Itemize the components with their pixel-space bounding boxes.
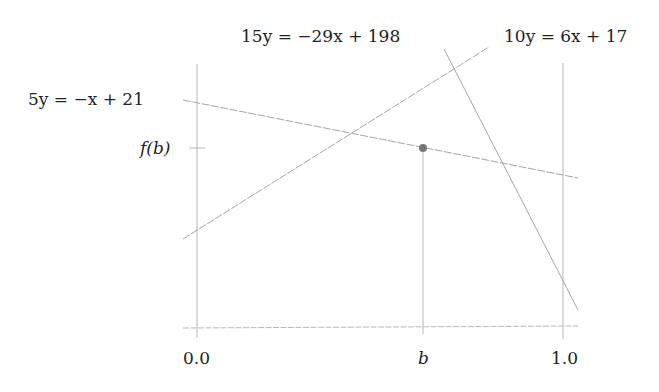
label-line-10y: 10y = 6x + 17 [504,28,627,45]
x-tick-b: b [418,350,429,367]
line-5y-eq-neg-x-plus-21 [183,100,578,178]
x-tick-0: 0.0 [183,350,210,367]
point-b-fb [419,144,427,152]
chart-canvas [0,0,659,392]
label-line-5y: 5y = −x + 21 [28,91,144,108]
x-axis [183,326,578,328]
x-tick-1: 1.0 [551,350,578,367]
line-10y-eq-6x-plus-17 [183,47,489,239]
y-tick-fb: f(b) [140,140,170,157]
line-15y-eq-neg29x-plus-198 [444,49,578,310]
label-line-15y: 15y = −29x + 198 [241,28,400,45]
